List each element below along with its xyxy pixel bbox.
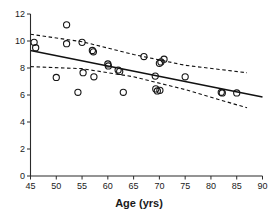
x-tick-label: 90 <box>257 181 267 191</box>
x-tick-label: 65 <box>129 181 139 191</box>
x-axis-title: Age (yrs) <box>115 197 163 209</box>
y-tick-label: 4 <box>20 117 25 127</box>
y-tick-label: 0 <box>20 171 25 181</box>
data-points-group <box>31 22 240 96</box>
x-tick-label: 60 <box>103 181 113 191</box>
plot-canvas: 024681012 45505560657075808590 Age (yrs) <box>0 0 278 222</box>
upper-confidence-line <box>31 34 248 72</box>
x-axis-tick-labels: 45505560657075808590 <box>25 181 267 191</box>
y-tick-label: 8 <box>20 63 25 73</box>
x-tick-label: 70 <box>154 181 164 191</box>
data-point <box>63 22 69 28</box>
data-point <box>141 53 147 59</box>
data-point <box>53 74 59 80</box>
y-tick-label: 10 <box>15 36 25 46</box>
data-point <box>117 68 123 74</box>
data-point <box>75 89 81 95</box>
data-point <box>120 89 126 95</box>
scatter-plot-figure: 024681012 45505560657075808590 Age (yrs) <box>0 0 278 222</box>
x-tick-label: 80 <box>206 181 216 191</box>
x-tick-label: 75 <box>180 181 190 191</box>
axes-group: 024681012 45505560657075808590 <box>15 9 268 191</box>
x-tick-label: 45 <box>25 181 35 191</box>
x-tick-label: 85 <box>232 181 242 191</box>
data-point <box>91 74 97 80</box>
y-tick-label: 12 <box>15 9 25 19</box>
y-tick-label: 2 <box>20 144 25 154</box>
data-point <box>63 41 69 47</box>
x-tick-label: 50 <box>51 181 61 191</box>
data-point <box>79 39 85 45</box>
y-tick-label: 6 <box>20 90 25 100</box>
x-tick-label: 55 <box>77 181 87 191</box>
y-axis-tick-labels: 024681012 <box>15 9 25 181</box>
upper-confidence-band <box>31 34 248 72</box>
data-point <box>80 70 86 76</box>
data-point <box>182 74 188 80</box>
